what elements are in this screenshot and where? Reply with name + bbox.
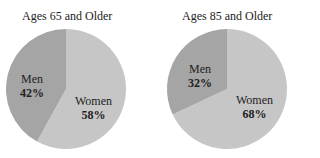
label-women-85: Women68% [236,93,273,121]
label-men-85: Men32% [188,62,212,90]
pie-85 [167,29,287,149]
label-men-65: Men42% [20,72,44,100]
label-women-65: Women58% [75,94,112,122]
